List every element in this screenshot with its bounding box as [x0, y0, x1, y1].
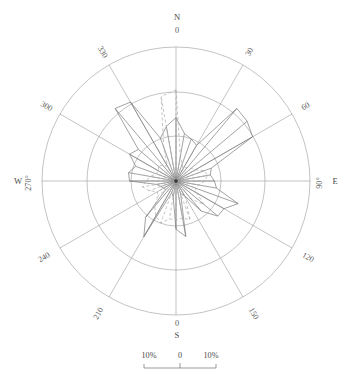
axis-label-north-degrees: 0	[175, 26, 179, 35]
scale-bar-right-label: 10%	[203, 351, 218, 360]
axis-label-150: 150	[247, 306, 261, 321]
series-dashed	[143, 90, 208, 223]
series-solid	[115, 102, 252, 237]
axis-label-210: 210	[91, 306, 105, 321]
axis-label-west: W	[14, 176, 23, 186]
axis-label-north: N	[174, 12, 181, 22]
wind-rose-svg: N 0 S 0 W 270° E 90° 30 60 120 150 210 2…	[0, 0, 344, 380]
axis-label-south: S	[175, 330, 180, 340]
axis-label-30: 30	[243, 46, 255, 58]
scale-bar-center-label: 0	[178, 351, 182, 360]
axis-label-east: E	[332, 176, 337, 186]
axis-label-south-degrees: 0	[175, 319, 179, 328]
axis-label-60: 60	[300, 100, 312, 112]
axis-label-west-degrees: 270°	[24, 175, 33, 191]
wind-rose-chart: N 0 S 0 W 270° E 90° 30 60 120 150 210 2…	[0, 0, 344, 380]
center-origin-marker	[174, 179, 178, 183]
axis-label-240: 240	[36, 250, 51, 264]
grid-spoke-240	[60, 181, 176, 248]
scale-bar-left-label: 10%	[141, 351, 156, 360]
grid-spoke-150	[176, 181, 243, 297]
axis-label-east-degrees: 90°	[315, 177, 324, 188]
axis-label-300: 300	[39, 99, 54, 113]
scale-bar-rule	[144, 363, 216, 368]
axis-label-120: 120	[300, 250, 315, 264]
axis-label-330: 330	[96, 44, 110, 59]
